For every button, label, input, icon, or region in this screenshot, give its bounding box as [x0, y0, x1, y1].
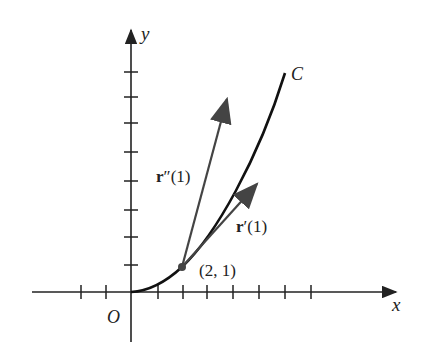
y-axis-label: y: [139, 23, 150, 44]
x-axis-label: x: [391, 294, 401, 315]
vector-r-prime-label: r′(1): [236, 217, 267, 236]
figure-canvas: y x O C (2, 1) r″(1) r′(1): [0, 0, 430, 360]
y-axis: [124, 30, 138, 342]
curve-c: [131, 73, 285, 292]
r-prime-suffix: ′(1): [244, 217, 268, 236]
point-label: (2, 1): [199, 261, 236, 280]
x-axis: [32, 285, 396, 299]
curve-label: C: [291, 64, 304, 84]
r-double-prime-suffix: ″(1): [164, 167, 191, 186]
point-2-1: [178, 263, 186, 271]
origin-label: O: [107, 307, 120, 327]
vector-r-double-prime-label: r″(1): [156, 167, 190, 186]
